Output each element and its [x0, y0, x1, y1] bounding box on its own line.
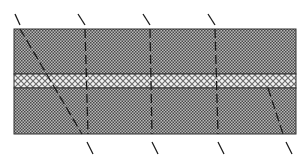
bands-group [14, 29, 296, 134]
top-tick-3 [143, 14, 150, 25]
middle-light-band [14, 74, 296, 88]
bottom-tick-3 [152, 142, 158, 154]
lower-dark-band [14, 88, 296, 134]
bottom-tick-5 [286, 142, 292, 154]
top-tick-4 [208, 14, 215, 25]
layered-band-diagram [0, 0, 306, 164]
bottom-tick-2 [87, 142, 93, 154]
top-tick-1 [15, 14, 20, 25]
upper-dark-band [14, 29, 296, 74]
bottom-tick-4 [218, 142, 224, 154]
top-tick-2 [78, 14, 85, 25]
